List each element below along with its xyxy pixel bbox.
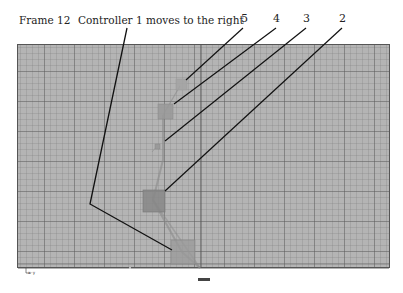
callout-line-2 bbox=[165, 28, 342, 191]
controller-3[interactable] bbox=[155, 144, 160, 149]
scene-overlay bbox=[0, 0, 403, 293]
callout-line-1 bbox=[90, 28, 172, 250]
controller-1[interactable] bbox=[171, 240, 195, 264]
controller-2[interactable] bbox=[143, 190, 165, 212]
origin-marker bbox=[129, 267, 131, 269]
controller-5[interactable] bbox=[176, 79, 187, 90]
axis-origin-label: x-y bbox=[28, 270, 35, 275]
camera-label-box bbox=[198, 278, 210, 281]
callout-line-5 bbox=[186, 28, 243, 80]
controller-4[interactable] bbox=[158, 104, 173, 119]
